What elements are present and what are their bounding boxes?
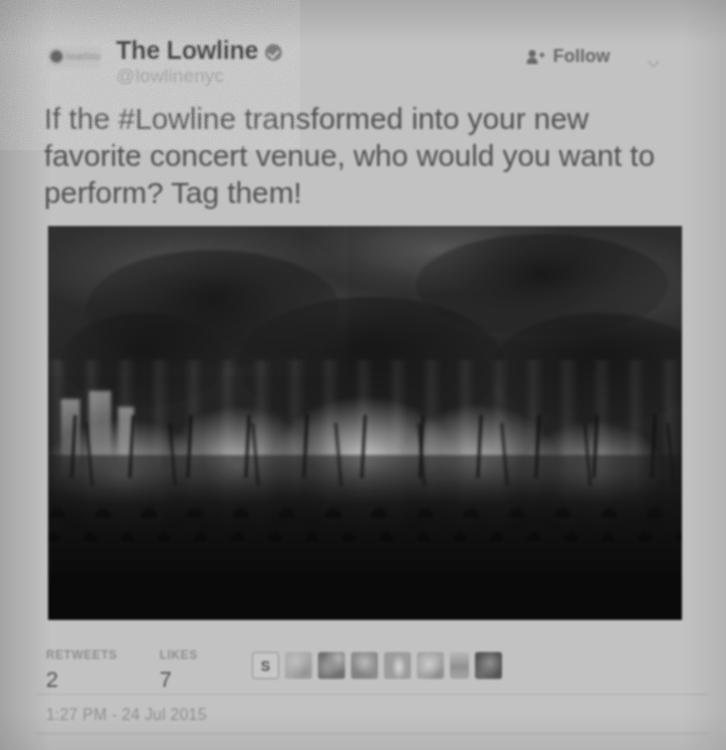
engager-avatar-7[interactable]: [450, 652, 469, 679]
engager-avatar-1[interactable]: S: [252, 652, 279, 679]
follow-button[interactable]: Follow: [526, 46, 610, 67]
person-plus-icon: [526, 49, 545, 65]
tweet-header: lowline The Lowline @lowlinenyc Follow: [44, 36, 690, 88]
engager-avatar-4[interactable]: [351, 652, 378, 679]
display-name: The Lowline: [116, 36, 258, 65]
divider-above-timestamp: [36, 694, 708, 695]
engager-avatar-6[interactable]: [417, 652, 444, 679]
engager-avatar-3[interactable]: [318, 652, 345, 679]
likes-label: LIKES: [159, 648, 197, 662]
verified-badge-icon: [265, 44, 282, 61]
divider-below-timestamp: [36, 733, 708, 734]
retweets-label: RETWEETS: [46, 648, 117, 662]
engager-avatar-list: S: [252, 652, 502, 679]
account-name-row[interactable]: The Lowline: [116, 36, 282, 65]
tweet-stats: RETWEETS 2 LIKES 7: [46, 648, 198, 693]
chevron-down-icon[interactable]: [647, 54, 660, 62]
tweet-timestamp[interactable]: 1:27 PM - 24 Jul 2015: [46, 706, 207, 724]
avatar-wordmark: lowline: [66, 51, 100, 62]
likes-value: 7: [159, 667, 197, 693]
retweets-value: 2: [46, 667, 117, 693]
retweets-stat[interactable]: RETWEETS 2: [46, 648, 117, 693]
avatar[interactable]: lowline: [48, 46, 100, 68]
account-handle[interactable]: @lowlinenyc: [116, 65, 224, 87]
avatar-logo-icon: [50, 50, 63, 63]
engager-avatar-8[interactable]: [475, 652, 502, 679]
tweet-photo[interactable]: [48, 226, 682, 620]
photo-grain: [48, 226, 348, 376]
photo-bottom-band: [48, 573, 682, 620]
follow-button-label: Follow: [553, 46, 610, 67]
likes-stat[interactable]: LIKES 7: [159, 648, 197, 693]
tweet-card: lowline The Lowline @lowlinenyc Follow: [0, 0, 726, 750]
tweet-text: If the #Lowline transformed into your ne…: [44, 100, 694, 211]
photo-crowd-heads: [48, 478, 682, 541]
tweet-screenshot: lowline The Lowline @lowlinenyc Follow: [0, 0, 726, 750]
engager-avatar-2[interactable]: [285, 652, 312, 679]
engager-avatar-5[interactable]: [384, 652, 411, 679]
